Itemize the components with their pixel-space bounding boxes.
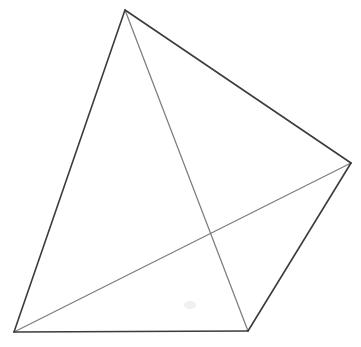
tetrahedron-figure (0, 0, 361, 347)
faint-smudge-mark (184, 301, 196, 309)
edge-bottom-right-to-bottom-left (14, 331, 248, 332)
canvas-background (0, 0, 361, 347)
tetrahedron-drawing-canvas (0, 0, 361, 347)
